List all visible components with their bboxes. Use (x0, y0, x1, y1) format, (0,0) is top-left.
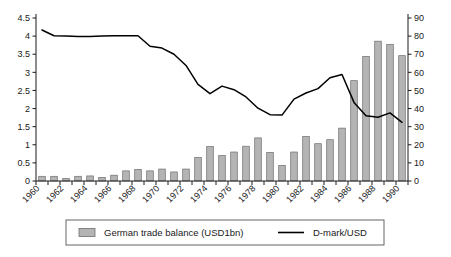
bar (75, 176, 82, 181)
bar (327, 140, 334, 181)
chart-legend: German trade balance (USD1bn)D-mark/USD (66, 220, 384, 245)
bar (207, 147, 214, 181)
y-axis-left-tick-label: 1.5 (17, 122, 30, 132)
bar (231, 152, 238, 181)
bar (147, 171, 154, 181)
bar (195, 157, 202, 181)
bar (99, 177, 106, 181)
bar (279, 165, 286, 181)
y-axis-left-tick-label: 4.5 (17, 13, 30, 23)
legend-swatch-bar (79, 229, 95, 237)
bar (399, 56, 406, 181)
y-axis-right-tick-label: 70 (414, 49, 424, 59)
combo-chart: 00.511.522.533.544.5 0102030405060708090… (0, 0, 451, 257)
y-axis-right-tick-label: 10 (414, 158, 424, 168)
bar (291, 152, 298, 181)
chart-container: 00.511.522.533.544.5 0102030405060708090… (0, 0, 451, 257)
bar (123, 171, 130, 181)
y-axis-left-tick-label: 0 (25, 176, 30, 186)
bar (363, 56, 370, 181)
y-axis-right-tick-label: 50 (414, 86, 424, 96)
y-axis-right-tick-label: 80 (414, 31, 424, 41)
bar (375, 41, 382, 181)
y-axis-left-tick-label: 2 (25, 104, 30, 114)
y-axis-left-tick-label: 3.5 (17, 49, 30, 59)
y-axis-right-tick-label: 20 (414, 140, 424, 150)
bar (135, 169, 142, 181)
bar (315, 144, 322, 181)
y-axis-left-tick-label: 4 (25, 31, 30, 41)
bar (303, 136, 310, 181)
bar (339, 128, 346, 181)
chart-background (0, 0, 451, 257)
bar (51, 176, 58, 181)
y-axis-right-tick-label: 30 (414, 122, 424, 132)
legend-label-german-trade-balance: German trade balance (USD1bn) (104, 227, 243, 238)
bar (159, 169, 166, 181)
bar (87, 176, 94, 181)
bar (255, 138, 262, 181)
bar (111, 175, 118, 181)
y-axis-right-tick-label: 60 (414, 68, 424, 78)
bar (183, 169, 190, 181)
bar (219, 156, 226, 181)
y-axis-right-tick-label: 0 (414, 176, 419, 186)
y-axis-left-tick-label: 3 (25, 68, 30, 78)
y-axis-left-tick-label: 2.5 (17, 86, 30, 96)
legend-label-dmark-usd: D-mark/USD (313, 227, 367, 238)
y-axis-left-tick-label: 1 (25, 140, 30, 150)
y-axis-right-tick-label: 40 (414, 104, 424, 114)
y-axis-left-tick-label: 0.5 (17, 158, 30, 168)
bar (267, 152, 274, 181)
bar (39, 176, 46, 181)
bar (243, 146, 250, 181)
bar (171, 172, 178, 181)
y-axis-right-tick-label: 90 (414, 13, 424, 23)
